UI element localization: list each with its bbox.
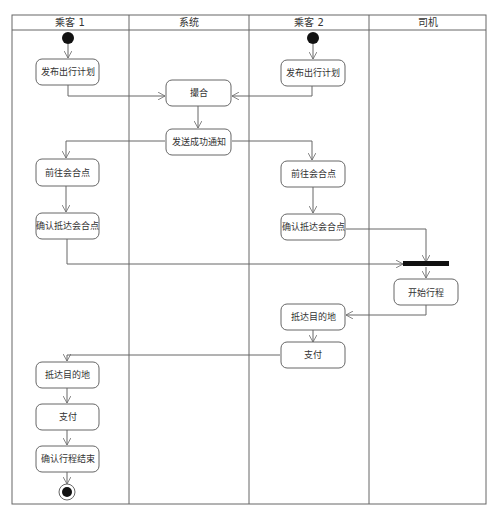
action-p2-publish-plan[interactable]: 发布出行计划 — [281, 60, 345, 86]
action-p1-go-to-meeting-point[interactable]: 前往会合点 — [36, 159, 99, 186]
action-label: 支付 — [59, 411, 77, 422]
action-label: 撮合 — [190, 87, 208, 98]
action-label: 开始行程 — [408, 287, 444, 298]
action-p1-pay[interactable]: 支付 — [36, 404, 99, 430]
action-label: 发送成功通知 — [172, 136, 226, 147]
action-p1-publish-plan[interactable]: 发布出行计划 — [36, 59, 99, 85]
action-label: 抵达目的地 — [45, 369, 90, 380]
action-p1-arrive-destination[interactable]: 抵达目的地 — [36, 362, 99, 388]
initial-node-p2 — [307, 32, 319, 44]
swimlane-frame — [12, 15, 486, 504]
action-p2-arrive-destination[interactable]: 抵达目的地 — [281, 304, 345, 330]
join-bar — [403, 261, 449, 266]
action-label: 支付 — [304, 349, 322, 360]
action-label: 确认抵达会合点 — [36, 220, 99, 231]
action-p2-go-to-meeting-point[interactable]: 前往会合点 — [281, 161, 345, 187]
action-p1-confirm-trip-end[interactable]: 确认行程结束 — [36, 446, 99, 472]
action-p2-confirm-arrival[interactable]: 确认抵达会合点 — [281, 214, 345, 240]
lane-title-passenger-1: 乘客 1 — [55, 16, 85, 28]
action-sys-send-success-notice[interactable]: 发送成功通知 — [166, 129, 231, 155]
action-label: 确认行程结束 — [41, 453, 95, 464]
lane-title-system: 系统 — [179, 16, 199, 28]
action-label: 发布出行计划 — [41, 66, 95, 77]
action-label: 抵达目的地 — [291, 311, 336, 322]
lane-title-driver: 司机 — [418, 16, 438, 28]
final-node — [59, 484, 75, 500]
action-label: 前往会合点 — [291, 168, 336, 179]
action-driver-start-trip[interactable]: 开始行程 — [394, 279, 458, 305]
action-label: 发布出行计划 — [286, 67, 340, 78]
action-label: 前往会合点 — [45, 167, 90, 178]
initial-node-p1 — [62, 32, 74, 44]
action-p2-pay[interactable]: 支付 — [281, 342, 345, 368]
lane-title-passenger-2: 乘客 2 — [294, 16, 324, 28]
action-p1-confirm-arrival[interactable]: 确认抵达会合点 — [36, 213, 99, 239]
action-sys-match[interactable]: 撮合 — [166, 80, 231, 106]
action-label: 确认抵达会合点 — [282, 221, 345, 232]
activity-diagram: 乘客 1 系统 乘客 2 司机 发布出行计划 前往会 — [0, 0, 495, 520]
